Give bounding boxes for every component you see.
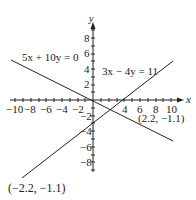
y-tick-label: 6 (84, 48, 90, 59)
x-tick-label: 4 (122, 104, 128, 115)
y-tick-label: −4 (80, 126, 92, 137)
y-tick-label: −8 (80, 157, 92, 168)
point-label-intersection: (2.2, −1.1) (138, 113, 185, 124)
x-axis-arrow-icon (177, 98, 184, 103)
x-tick-label: −8 (24, 104, 36, 115)
y-axis-label: y (89, 14, 93, 24)
equation-label-1: 5x + 10y = 0 (22, 52, 78, 63)
x-tick-label: −10 (6, 104, 23, 115)
y-tick-label: −2 (80, 111, 92, 122)
y-tick-label: 4 (84, 64, 90, 75)
y-tick-label: −6 (80, 142, 92, 153)
y-tick-label: 2 (84, 79, 90, 90)
x-axis-label: x (186, 94, 191, 105)
point-label-bottom: (−2.2, −1.1) (8, 182, 66, 194)
chart-canvas (0, 0, 196, 200)
x-tick-label: −6 (40, 104, 52, 115)
x-tick-label: −4 (56, 104, 68, 115)
y-tick-label: 8 (84, 33, 90, 44)
equation-label-2: 3x − 4y = 11 (102, 66, 158, 77)
